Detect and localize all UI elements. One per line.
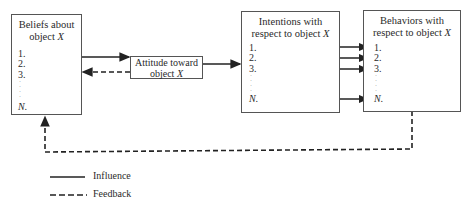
behaviors-title-line2: respect to object X [364,27,460,39]
list-item: N. [249,94,258,104]
beliefs-title-line1: Beliefs about [12,19,81,31]
intentions-title: Intentions with respect to object X [242,16,339,39]
attitude-title: Attitude toward object X [131,58,202,79]
intentions-box: Intentions with respect to object X 1. 2… [241,11,340,113]
beliefs-box: Beliefs about object X 1. 2. 3. ···· N. [11,14,82,115]
behaviors-title: Behaviors with respect to object X [364,15,460,38]
attitude-title-line2: object X [131,69,202,80]
behaviors-box: Behaviors with respect to object X 1. 2.… [363,10,461,112]
behaviors-title-line1: Behaviors with [364,15,460,27]
intentions-list: 1. 2. 3. ···· N. [249,43,258,104]
ellipsis-vertical: ···· [374,74,383,94]
behaviors-list: 1. 2. 3. ···· N. [374,43,383,104]
feedback-loop-behaviors-beliefs [45,111,412,152]
beliefs-list: 1. 2. 3. ···· N. [18,49,27,112]
intentions-title-line2: respect to object X [242,28,339,40]
ellipsis-vertical: ···· [18,80,27,102]
legend-influence-label: Influence [93,170,131,181]
intentions-title-line1: Intentions with [242,16,339,28]
ellipsis-vertical: ···· [249,74,258,94]
legend-feedback-label: Feedback [93,188,131,199]
list-item: N. [18,102,27,112]
beliefs-title: Beliefs about object X [12,19,81,42]
list-item: N. [374,94,383,104]
beliefs-title-line2: object X [12,31,81,43]
attitude-box: Attitude toward object X [130,56,203,79]
